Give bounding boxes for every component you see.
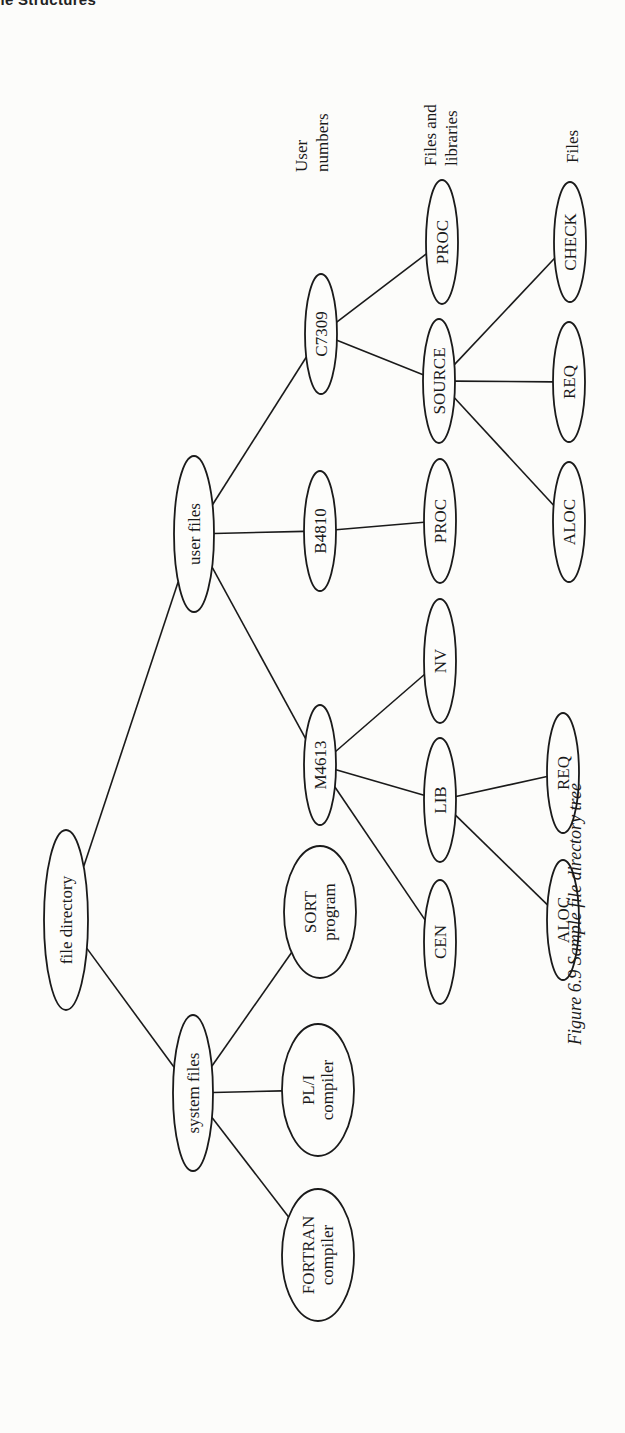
node-pli-compiler: PL/Icompiler xyxy=(282,1024,354,1156)
node-label: compiler xyxy=(318,1059,337,1120)
edge-source-to-source-aloc xyxy=(454,398,553,506)
level-label-files: Files xyxy=(563,130,582,163)
edge-source-to-source-req xyxy=(455,381,553,382)
edge-user-files-to-m4613 xyxy=(212,567,306,738)
edge-user-files-to-c7309 xyxy=(213,357,307,505)
node-source-aloc: ALOC xyxy=(553,462,585,582)
edge-user-files-to-b4810 xyxy=(214,531,304,533)
node-sort-program: SORTprogram xyxy=(284,846,356,978)
node-lib: LIB xyxy=(424,738,456,862)
node-label: file directory xyxy=(57,875,76,964)
edge-c7309-to-source xyxy=(337,340,423,374)
edge-system-files-to-pli-compiler xyxy=(213,1091,282,1093)
edge-system-files-to-fortran-compiler xyxy=(212,1118,289,1217)
node-label: NV xyxy=(431,648,450,673)
figure-caption: Figure 6.9 Sample file directory tree xyxy=(565,783,585,1046)
edge-file-directory-to-system-files xyxy=(87,948,174,1067)
edge-source-to-check xyxy=(454,258,554,364)
node-label: compiler xyxy=(318,1224,337,1285)
level-label-line: libraries xyxy=(442,110,461,166)
level-labels: UsernumbersFiles andlibrariesFiles xyxy=(292,104,582,172)
node-nv: NV xyxy=(424,599,456,723)
edge-m4613-to-lib xyxy=(336,770,424,796)
edge-file-directory-to-user-files xyxy=(84,582,179,867)
node-c7309: C7309 xyxy=(305,274,337,394)
node-label: M4613 xyxy=(311,740,330,789)
node-label: SORT xyxy=(301,890,320,933)
node-b4810-proc: PROC xyxy=(424,459,456,583)
node-label: user files xyxy=(185,503,204,565)
edge-system-files-to-sort-program xyxy=(212,953,292,1067)
edge-c7309-to-c7309-proc xyxy=(337,254,427,322)
edge-m4613-to-nv xyxy=(336,675,425,752)
level-label-files-and-libraries: Files andlibraries xyxy=(421,104,461,166)
node-file-directory: file directory xyxy=(44,830,88,1010)
node-c7309-proc: PROC xyxy=(426,180,458,304)
node-label: CHECK xyxy=(561,212,580,270)
level-label-line: User xyxy=(292,140,311,172)
level-label-line: Files and xyxy=(421,104,440,166)
node-system-files: system files xyxy=(173,1015,213,1171)
tree-nodes: file directorysystem filesuser filesFORT… xyxy=(44,180,586,1321)
node-b4810: B4810 xyxy=(304,471,336,591)
node-label: C7309 xyxy=(312,311,331,356)
figure-caption-group: Figure 6.9 Sample file directory tree xyxy=(565,783,585,1046)
edge-lib-to-lib-req xyxy=(456,777,547,797)
edge-b4810-to-b4810-proc xyxy=(336,522,424,529)
node-label: CEN xyxy=(431,925,450,959)
file-directory-tree-diagram: file directorysystem filesuser filesFORT… xyxy=(0,0,625,1433)
node-label: REQ xyxy=(560,365,579,399)
node-label: system files xyxy=(184,1053,203,1134)
level-label-user-numbers: Usernumbers xyxy=(292,113,332,172)
node-check: CHECK xyxy=(554,182,586,302)
node-label: PROC xyxy=(433,220,452,264)
node-label: PROC xyxy=(431,499,450,543)
node-label: FORTRAN xyxy=(299,1216,318,1294)
node-label: B4810 xyxy=(311,508,330,553)
node-user-files: user files xyxy=(174,456,214,612)
node-source: SOURCE xyxy=(423,319,455,443)
node-label: SOURCE xyxy=(430,347,449,414)
node-m4613: M4613 xyxy=(304,705,336,825)
node-cen: CEN xyxy=(424,880,456,1004)
edge-lib-to-lib-aloc xyxy=(456,815,548,905)
level-label-line: numbers xyxy=(313,113,332,172)
node-source-req: REQ xyxy=(553,322,585,442)
node-fortran-compiler: FORTRANcompiler xyxy=(282,1189,354,1321)
level-label-line: Files xyxy=(563,130,582,163)
node-label: PL/I xyxy=(299,1075,318,1106)
node-label: LIB xyxy=(431,786,450,813)
node-label: program xyxy=(320,883,339,941)
node-label: ALOC xyxy=(560,499,579,545)
